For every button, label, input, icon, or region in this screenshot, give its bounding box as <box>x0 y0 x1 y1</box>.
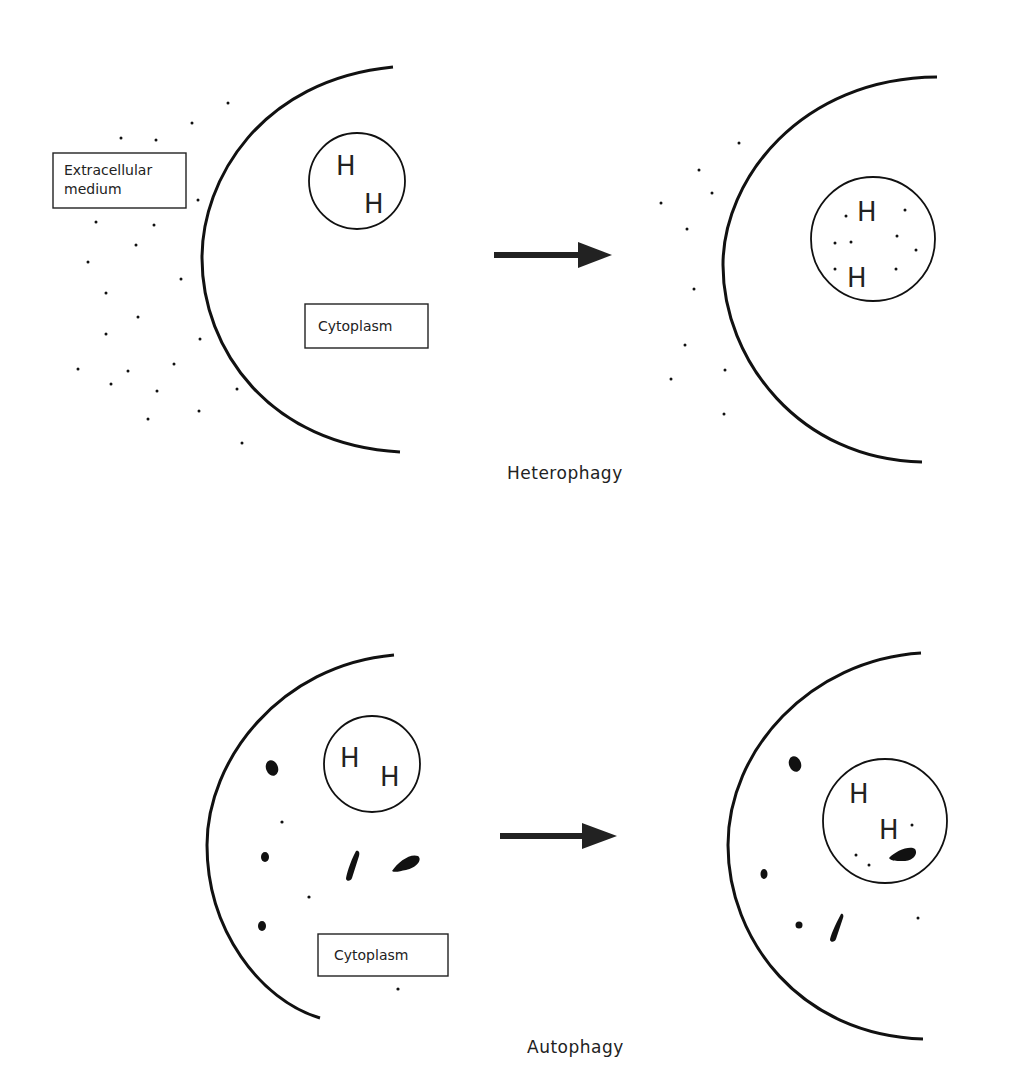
extracellular-particles <box>660 142 741 416</box>
heterophagy-before: H H Extracellular medium Cytoplasm <box>53 67 428 452</box>
autophagy-caption: Autophagy <box>527 1037 624 1057</box>
autophagy-before: H H Cytoplasm <box>207 655 448 1018</box>
extracellular-label-line2: medium <box>64 181 122 197</box>
autophagy-arrow <box>500 823 617 849</box>
cell-membrane <box>202 67 400 452</box>
lysosome-letter-h: H <box>336 151 356 181</box>
heterophagy-caption: Heterophagy <box>507 463 623 483</box>
cytoplasm-label: Cytoplasm <box>318 318 392 334</box>
lysosome-letter-h: H <box>857 197 877 227</box>
heterophagy-arrow <box>494 242 612 268</box>
lysosome <box>309 133 405 229</box>
phagy-diagram: H H Extracellular medium Cytoplasm <box>0 0 1023 1075</box>
lysosome <box>811 177 935 301</box>
lysosome-letter-h: H <box>879 815 899 845</box>
cell-membrane <box>728 653 923 1039</box>
lysosome-letter-h: H <box>849 779 869 809</box>
lysosome-letter-h: H <box>380 762 400 792</box>
extracellular-label-line1: Extracellular <box>64 162 152 178</box>
cytoplasm-label: Cytoplasm <box>334 947 408 963</box>
lysosome-letter-h: H <box>847 263 867 293</box>
autophagy-after: H H <box>728 653 947 1039</box>
cell-membrane <box>723 77 937 462</box>
lysosome <box>324 716 420 812</box>
lysosome-letter-h: H <box>340 743 360 773</box>
heterophagy-after: H H <box>660 77 938 462</box>
organelle-fragments <box>761 754 920 941</box>
lysosome-letter-h: H <box>364 189 384 219</box>
